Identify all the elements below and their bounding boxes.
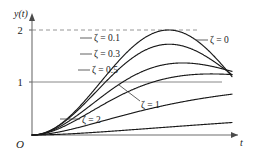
x-axis-arrow-icon bbox=[231, 132, 238, 138]
series-label-zeta-0-5: ζ = 0.5 bbox=[92, 65, 118, 76]
curve-zeta-2 bbox=[32, 123, 232, 135]
series-label-zeta-0: ζ = 0 bbox=[210, 35, 229, 46]
x-axis-label: t bbox=[240, 137, 243, 148]
series-label-zeta-2: ζ = 2 bbox=[82, 115, 101, 126]
origin-label: O bbox=[16, 138, 24, 150]
step-response-figure: y(t) t O 2 1 ζ = 0.1 ζ = 0.3 ζ = 0.5 ζ =… bbox=[0, 0, 260, 154]
y-axis-arrow-icon bbox=[29, 13, 35, 21]
series-label-zeta-1: ζ = 1 bbox=[141, 100, 160, 111]
y-tick-label-2: 2 bbox=[17, 25, 22, 36]
plot-canvas: y(t) t O 2 1 ζ = 0.1 ζ = 0.3 ζ = 0.5 ζ =… bbox=[0, 0, 260, 154]
curve-zeta-1 bbox=[32, 94, 232, 135]
series-label-zeta-0-1: ζ = 0.1 bbox=[94, 33, 120, 44]
y-tick-label-1: 1 bbox=[17, 77, 22, 88]
series-label-zeta-0-3: ζ = 0.3 bbox=[94, 49, 120, 60]
y-axis-label: y(t) bbox=[13, 8, 29, 20]
